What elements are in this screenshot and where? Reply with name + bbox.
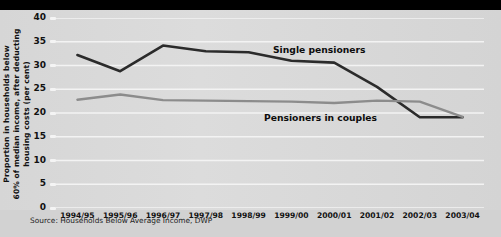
y-tick-label: 0 <box>24 202 46 212</box>
y-tick-mark <box>50 64 56 67</box>
series-label-pensioners-in-couples: Pensioners in couples <box>264 112 377 123</box>
y-tick-mark <box>50 17 56 20</box>
y-tick-label: 5 <box>24 178 46 188</box>
x-tick-label: 2003/04 <box>437 211 489 220</box>
source-note: Source: Households Below Average Income,… <box>30 216 212 225</box>
chart-figure: Proportion in households below 60% of me… <box>0 0 501 237</box>
y-tick-mark <box>50 40 56 43</box>
series-line-single-pensioners <box>77 46 462 118</box>
y-tick-label: 20 <box>24 107 46 117</box>
series-label-single-pensioners: Single pensioners <box>273 44 366 55</box>
y-axis-title-line-1: Proportion in households below <box>2 19 12 209</box>
y-tick-mark <box>50 159 56 162</box>
y-tick-label: 30 <box>24 60 46 70</box>
y-tick-label: 40 <box>24 12 46 22</box>
y-tick-mark <box>50 112 56 115</box>
y-tick-label: 25 <box>24 83 46 93</box>
y-tick-label: 35 <box>24 36 46 46</box>
y-tick-mark <box>50 207 56 210</box>
y-tick-mark <box>50 135 56 138</box>
y-tick-mark <box>50 183 56 186</box>
y-tick-label: 15 <box>24 131 46 141</box>
y-axis-title-line-2: 60% of median income, after deducting <box>12 19 22 209</box>
y-tick-label: 10 <box>24 155 46 165</box>
y-tick-mark <box>50 88 56 91</box>
